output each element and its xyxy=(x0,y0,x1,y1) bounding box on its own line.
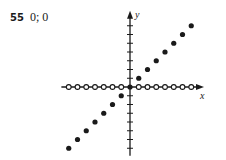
open-point xyxy=(66,85,71,90)
open-point xyxy=(189,85,194,90)
filled-point xyxy=(84,128,89,133)
scatter-plot: x y xyxy=(0,0,226,160)
open-point xyxy=(101,85,106,90)
filled-point xyxy=(136,76,141,81)
open-point xyxy=(93,85,98,90)
filled-point xyxy=(162,49,167,54)
filled-point xyxy=(127,84,132,89)
filled-point xyxy=(180,32,185,37)
open-point xyxy=(154,85,159,90)
open-point xyxy=(180,85,185,90)
open-point xyxy=(84,85,89,90)
filled-point xyxy=(154,58,159,63)
filled-point xyxy=(66,146,71,151)
filled-point xyxy=(110,102,115,107)
filled-point xyxy=(189,23,194,28)
open-point xyxy=(145,85,150,90)
y-axis-label: y xyxy=(134,9,140,20)
open-point xyxy=(136,85,141,90)
open-point xyxy=(75,85,80,90)
x-axis-label: x xyxy=(199,90,205,101)
open-point xyxy=(110,85,115,90)
open-point xyxy=(119,85,124,90)
open-point xyxy=(171,85,176,90)
filled-point xyxy=(75,137,80,142)
filled-point xyxy=(119,93,124,98)
open-point xyxy=(163,85,168,90)
filled-point xyxy=(145,67,150,72)
filled-point xyxy=(171,41,176,46)
filled-point xyxy=(101,111,106,116)
y-axis-arrow-icon xyxy=(127,11,133,19)
filled-point xyxy=(92,119,97,124)
